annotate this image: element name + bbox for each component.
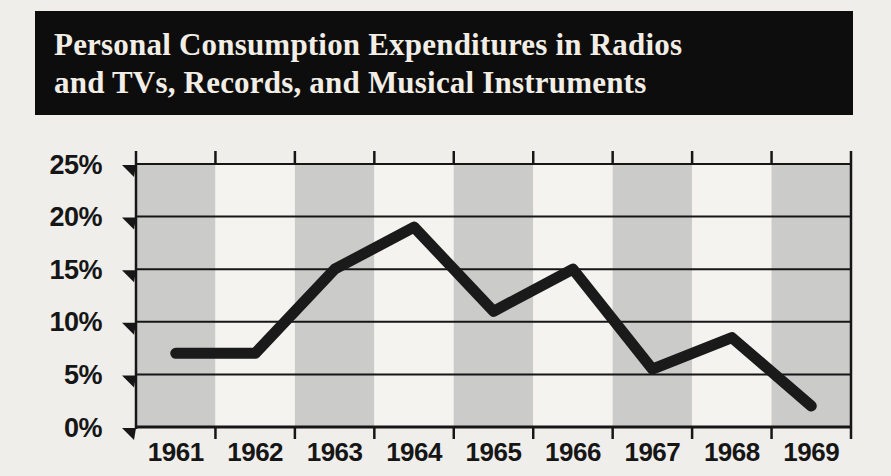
y-axis-arrow-5 xyxy=(122,375,136,387)
year-band-1967 xyxy=(613,164,692,427)
y-axis-label-25: 25% xyxy=(49,150,102,180)
y-axis-arrow-0 xyxy=(122,428,136,440)
y-axis-label-0: 0% xyxy=(64,413,103,443)
x-axis-label-1966: 1966 xyxy=(545,437,601,467)
y-axis-label-15: 15% xyxy=(49,255,102,285)
page: Personal Consumption Expenditures in Rad… xyxy=(0,0,891,476)
y-axis-label-20: 20% xyxy=(49,202,102,232)
y-axis-label-5: 5% xyxy=(64,360,103,390)
y-axis-label-10: 10% xyxy=(49,307,102,337)
x-axis-label-1961: 1961 xyxy=(148,437,204,467)
year-band-1968 xyxy=(692,164,771,427)
x-axis-label-1967: 1967 xyxy=(624,437,680,467)
x-axis-label-1965: 1965 xyxy=(466,437,522,467)
x-axis-label-1964: 1964 xyxy=(386,437,443,467)
year-band-1961 xyxy=(136,164,215,427)
x-axis-label-1962: 1962 xyxy=(227,437,283,467)
year-band-1964 xyxy=(374,164,453,427)
y-axis-arrow-20 xyxy=(122,218,136,230)
year-band-1962 xyxy=(215,164,294,427)
y-axis-arrow-10 xyxy=(122,323,136,335)
y-axis-arrow-25 xyxy=(122,165,136,177)
x-axis-label-1963: 1963 xyxy=(307,437,363,467)
x-axis-label-1969: 1969 xyxy=(783,437,839,467)
line-chart: 0%5%10%15%20%25%196119621963196419651966… xyxy=(0,0,891,476)
y-axis-arrow-15 xyxy=(122,270,136,282)
x-axis-label-1968: 1968 xyxy=(704,437,760,467)
